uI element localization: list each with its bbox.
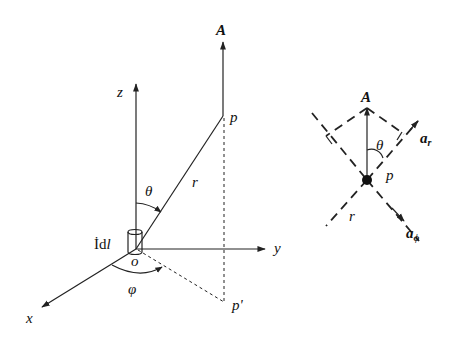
point-p-label-right: p xyxy=(385,167,394,183)
point-p-dot xyxy=(362,175,372,185)
unit-phi-arrow xyxy=(392,208,404,221)
ground-projection-line xyxy=(138,250,224,302)
unit-r-arrow xyxy=(410,121,418,130)
diagram-canvas: A p r θ φ o p' z y x İdl A θ p r xyxy=(0,0,458,346)
phi-label: φ xyxy=(128,281,136,297)
unit-phi-label: aϕ xyxy=(406,225,420,243)
origin-label: o xyxy=(131,253,139,269)
dashed-line-left xyxy=(312,113,367,180)
projection-label: p' xyxy=(231,297,244,313)
theta-label: θ xyxy=(145,183,153,199)
z-axis-label: z xyxy=(116,84,123,100)
x-axis-label: x xyxy=(25,310,33,326)
right-diagram: A θ p r ar aϕ xyxy=(312,89,432,243)
dashed-line-top-right xyxy=(367,108,404,134)
left-diagram: A p r θ φ o p' z y x İdl xyxy=(25,22,281,326)
theta-label-right: θ xyxy=(376,137,384,153)
x-axis xyxy=(42,249,136,307)
point-p-label: p xyxy=(229,109,238,125)
vector-a-label-right: A xyxy=(360,89,371,105)
y-axis-label: y xyxy=(272,240,281,256)
theta-arc xyxy=(136,203,161,212)
radius-label-right: r xyxy=(349,208,355,224)
dashed-line-r xyxy=(326,180,367,226)
radius-label: r xyxy=(192,174,198,190)
unit-r-label: ar xyxy=(420,130,432,148)
vector-a-label: A xyxy=(215,22,226,38)
dashed-line-top-left xyxy=(326,108,367,136)
current-element-label: İdl xyxy=(94,236,111,252)
